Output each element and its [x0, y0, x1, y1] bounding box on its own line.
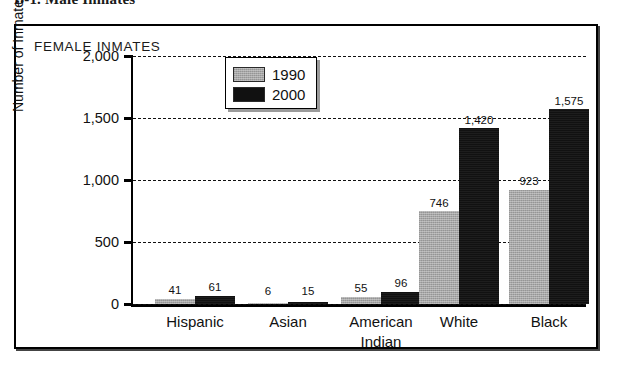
y-tick-label-1000: 1,000 [83, 172, 119, 188]
y-tick-2000 [124, 55, 133, 58]
bar-american-indian-1990 [341, 297, 381, 304]
bar-value-hispanic-1990: 41 [153, 284, 197, 296]
bar-value-asian-1990: 6 [246, 285, 290, 297]
figure-frame: FEMALE INMATES Number of Inmates 0 500 1… [14, 24, 598, 349]
legend-entry-2000: 2000 [233, 86, 305, 103]
x-category-label-american-indian-line2: Indian [316, 332, 446, 352]
plot-area: 0 500 1,000 1,500 2,000 41 61 [131, 56, 586, 306]
bar-white-1990 [419, 211, 459, 304]
bar-group-hispanic: 41 61 [155, 56, 235, 304]
bar-value-white-2000: 1,420 [457, 114, 501, 126]
bar-value-american-indian-1990: 55 [339, 282, 383, 294]
gridline-0 [133, 304, 586, 305]
legend-label-2000: 2000 [272, 86, 305, 103]
legend-swatch-1990-icon [233, 67, 265, 82]
legend-label-1990: 1990 [272, 66, 305, 83]
y-tick-0 [124, 303, 133, 306]
bar-asian-1990 [248, 303, 288, 304]
bar-group-white: 746 1,420 [419, 56, 499, 304]
bar-hispanic-1990 [155, 299, 195, 304]
bar-value-asian-2000: 15 [286, 285, 330, 297]
legend-swatch-2000-icon [233, 87, 265, 102]
bar-hispanic-2000 [195, 296, 235, 304]
bar-value-american-indian-2000: 96 [379, 277, 423, 289]
bar-value-black-2000: 1,575 [547, 95, 591, 107]
bar-group-american-indian: 55 96 [341, 56, 421, 304]
bar-value-hispanic-2000: 61 [193, 281, 237, 293]
y-axis-title: Number of Inmates [10, 0, 26, 112]
x-category-label-black-line1: Black [484, 312, 614, 332]
bar-group-black: 923 1,575 [509, 56, 589, 304]
bar-value-black-1990: 923 [507, 175, 551, 187]
bar-value-white-1990: 746 [417, 197, 461, 209]
y-tick-label-2000: 2,000 [83, 48, 119, 64]
bar-black-1990 [509, 190, 549, 304]
chart-legend: 1990 2000 [225, 57, 317, 109]
bar-white-2000 [459, 128, 499, 304]
y-tick-label-0: 0 [111, 296, 119, 312]
bar-american-indian-2000 [381, 292, 421, 304]
bar-black-2000 [549, 109, 589, 304]
y-tick-500 [124, 241, 133, 244]
y-tick-1000 [124, 179, 133, 182]
x-category-label-black: Black [484, 312, 614, 332]
y-tick-label-500: 500 [95, 234, 119, 250]
y-tick-1500 [124, 117, 133, 120]
figure-caption-above: B-1. Male Inmates [14, 0, 135, 8]
y-tick-label-1500: 1,500 [83, 110, 119, 126]
legend-entry-1990: 1990 [233, 66, 305, 83]
bar-asian-2000 [288, 302, 328, 304]
